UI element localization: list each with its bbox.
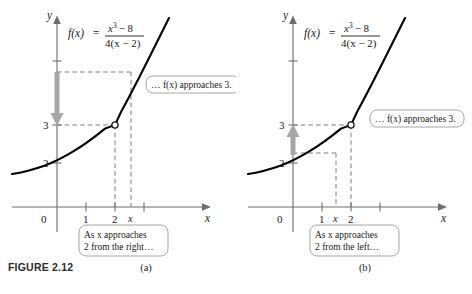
y-tick-label-a-3: 3 [43, 119, 49, 131]
guide-lines-b [293, 125, 351, 207]
formula-a-denominator: 4(x − 2) [105, 37, 141, 50]
x-tick-label-b-2: 2 [348, 213, 354, 225]
callout-approach-a-line1: As x approaches [84, 230, 147, 240]
x-axis-label-a: x [204, 212, 211, 224]
function-curve-a [12, 18, 169, 174]
callout-limit-b[interactable]: … f(x) approaches 3. [370, 110, 464, 127]
approach-arrow-a [51, 72, 64, 126]
callout-approach-b[interactable]: As x approaches 2 from the left… [310, 225, 399, 256]
figure-2-12: y x 0 1 2 x 3 2 f(x) = x3− 8 4(x − 2) [0, 0, 472, 294]
callout-approach-a-line2: 2 from the right… [84, 242, 153, 252]
x-tick-label-a-x: x [127, 213, 133, 224]
panel-b: y x 0 1 x 2 3 2 f(x) = x3− 8 4(x − 2) [236, 0, 472, 294]
function-curve-b [248, 18, 405, 174]
formula-b-num-exp: 3 [349, 21, 353, 30]
formula-a-equals: = [93, 27, 100, 39]
x-axis-a [12, 203, 211, 211]
sublabel-b: (b) [345, 262, 385, 273]
x-axis-label-b: x [440, 212, 447, 224]
formula-b: f(x) = x3− 8 4(x − 2) [304, 21, 380, 50]
formula-a-num-exp: 3 [113, 21, 117, 30]
callout-approach-a[interactable]: As x approaches 2 from the right… [79, 225, 168, 256]
discontinuity-hole-a [112, 122, 118, 128]
callout-approach-b-line2: 2 from the left… [315, 242, 379, 252]
formula-b-equals: = [329, 27, 336, 39]
callout-limit-a-text: … f(x) approaches 3. [151, 80, 232, 91]
y-tick-label-b-3: 3 [279, 119, 285, 131]
callout-approach-b-line1: As x approaches [315, 230, 378, 240]
formula-b-num-rest: − 8 [355, 22, 370, 34]
guide-lines-a [57, 72, 131, 207]
x-tick-label-a-1: 1 [83, 213, 89, 225]
formula-a-fx: f(x) [68, 27, 84, 40]
graph-a: y x 0 1 2 x 3 2 f(x) = x3− 8 4(x − 2) [0, 0, 236, 260]
formula-a-numerator: x3− 8 [107, 21, 134, 34]
y-tick-label-a-2: 2 [43, 157, 49, 169]
formula-b-fx: f(x) [304, 27, 320, 40]
formula-a-num-rest: − 8 [119, 22, 134, 34]
x-tick-label-b-x: x [332, 213, 338, 224]
y-axis-label-b: y [282, 9, 289, 22]
panel-a: y x 0 1 2 x 3 2 f(x) = x3− 8 4(x − 2) [0, 0, 236, 294]
x-tick-label-a-2: 2 [112, 213, 118, 225]
approach-arrow-b [287, 124, 300, 155]
formula-a: f(x) = x3− 8 4(x − 2) [68, 21, 144, 50]
figure-caption-label: FIGURE 2.12 [8, 261, 73, 273]
origin-label-b: 0 [277, 213, 283, 225]
formula-b-numerator: x3− 8 [343, 21, 370, 34]
x-tick-label-b-1: 1 [319, 213, 325, 225]
sublabel-a: (a) [126, 262, 166, 273]
callout-limit-b-text: … f(x) approaches 3. [375, 114, 456, 125]
formula-b-denominator: 4(x − 2) [341, 37, 377, 50]
y-axis-b [289, 16, 297, 233]
origin-label-a: 0 [41, 213, 47, 225]
y-axis-label-a: y [46, 9, 53, 22]
discontinuity-hole-b [348, 122, 354, 128]
graph-b: y x 0 1 x 2 3 2 f(x) = x3− 8 4(x − 2) [236, 0, 472, 260]
callout-limit-a[interactable]: … f(x) approaches 3. [146, 76, 236, 93]
y-tick-label-b-2: 2 [279, 157, 285, 169]
x-axis-b [248, 203, 447, 211]
